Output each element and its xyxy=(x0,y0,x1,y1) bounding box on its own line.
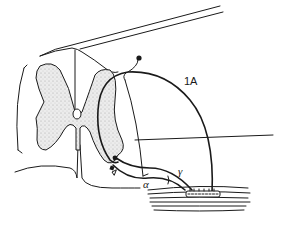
central-canal xyxy=(73,109,81,119)
dorsal-root-branch xyxy=(128,60,138,72)
dorsal-root-ganglion xyxy=(136,55,141,60)
label-1A: 1A xyxy=(184,75,198,87)
label-alpha: α xyxy=(143,178,149,190)
label-gamma: γ xyxy=(178,165,183,177)
reflex-arc-diagram: 1A α γ xyxy=(0,0,285,230)
ventral-root-line xyxy=(135,135,273,140)
